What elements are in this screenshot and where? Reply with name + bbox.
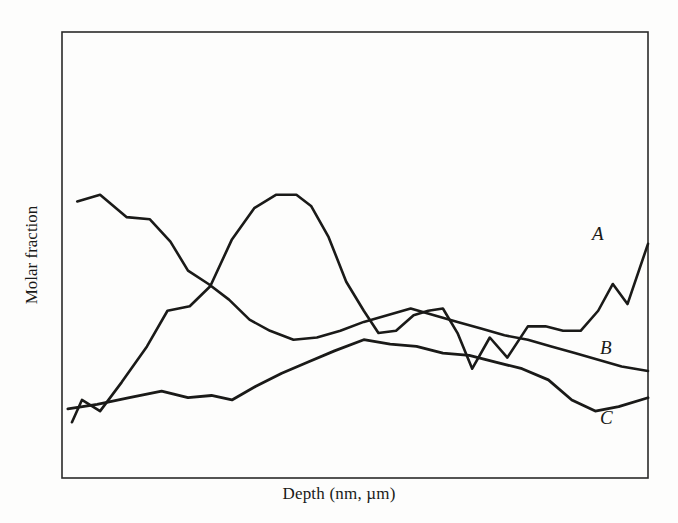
series-label-b: B	[600, 338, 612, 357]
y-axis-label-container: Molar fraction	[18, 32, 46, 478]
x-axis-label: Depth (nm, µm)	[0, 484, 678, 504]
plot-canvas	[0, 0, 678, 523]
chart-figure: Molar fraction Depth (nm, µm) A B C	[0, 0, 678, 523]
plot-frame	[62, 32, 648, 478]
series-label-c: C	[600, 408, 613, 427]
series-label-a: A	[592, 224, 604, 243]
series-line-b	[77, 195, 648, 371]
y-axis-label: Molar fraction	[22, 206, 42, 305]
